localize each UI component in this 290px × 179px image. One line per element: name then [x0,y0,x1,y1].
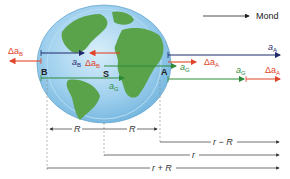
dim-R-right: R [129,124,136,134]
label-a-G-right: aG [236,65,246,76]
dim-R-left: R [74,124,81,134]
tidal-force-diagram: Mond ΔaB aB ΔaB aA ΔaA aG aG aG ΔaA B S … [0,0,290,179]
dim-r-plus-R: r + R [152,163,172,173]
label-delta-a-A-inner: ΔaA [204,57,219,68]
point-A-label: A [161,67,168,77]
label-a-A: aA [268,42,277,53]
point-B-label: B [41,67,48,77]
dimension-labels: R R r − R r r + R [72,124,237,173]
legend-moon-direction: Mond [203,11,279,21]
legend-moon-label: Mond [256,11,279,21]
dim-r-minus-R: r − R [213,137,233,147]
earth-globe [37,5,171,123]
point-S-label: S [103,69,109,79]
label-delta-a-B-outer: ΔaB [8,46,23,57]
label-a-G-at-A: aG [180,62,190,73]
label-delta-a-A-outer: ΔaA [265,65,280,76]
